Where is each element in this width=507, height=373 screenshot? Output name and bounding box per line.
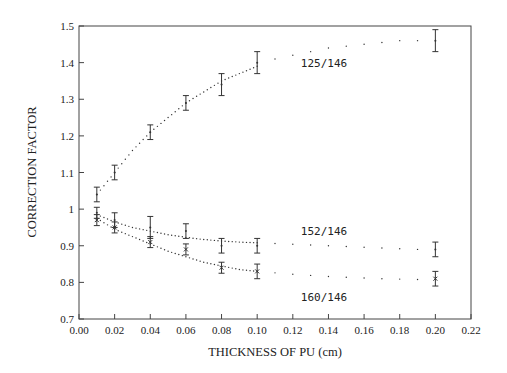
fit-dot: [246, 270, 247, 271]
fit-dot: [125, 159, 126, 160]
fit-dot: [103, 217, 104, 218]
fit-dot: [274, 272, 275, 273]
chart: 0.000.020.040.060.080.100.120.140.160.18…: [0, 0, 507, 373]
fit-dot: [118, 222, 119, 223]
fit-dot: [103, 185, 104, 186]
fit-dot: [199, 260, 200, 261]
fit-dot: [135, 237, 136, 238]
fit-dot: [274, 243, 275, 244]
point-marker: [256, 62, 258, 64]
fit-dot: [100, 220, 101, 221]
fit-dot: [224, 266, 225, 267]
fit-dot: [239, 269, 240, 270]
fit-dot: [232, 267, 233, 268]
series-group: 125/146152/146160/146: [94, 30, 439, 305]
fit-dot: [142, 240, 143, 241]
fit-dot: [346, 277, 347, 278]
fit-dot: [242, 242, 243, 243]
fit-dot: [142, 229, 143, 230]
fit-dot: [249, 69, 250, 70]
fit-dot: [139, 239, 140, 240]
fit-dot: [164, 120, 165, 121]
x-tick-label: 0.16: [354, 324, 374, 336]
fit-dot: [217, 82, 218, 83]
point-marker: [185, 102, 187, 104]
fit-dot: [253, 67, 254, 68]
fit-dot: [132, 236, 133, 237]
point-marker: [221, 84, 223, 86]
fit-dot: [399, 278, 400, 279]
fit-dot: [207, 89, 208, 90]
fit-dot: [153, 231, 154, 232]
x-tick-label: 0.12: [283, 324, 302, 336]
fit-dot: [171, 252, 172, 253]
fit-dot: [399, 40, 400, 41]
fit-dot: [142, 139, 143, 140]
y-axis-title: CORRECTION FACTOR: [25, 106, 39, 238]
fit-dot: [189, 237, 190, 238]
fit-dot: [107, 224, 108, 225]
series-label: 152/146: [301, 225, 347, 238]
x-tick-label: 0.02: [105, 324, 124, 336]
x-axis: 0.000.020.040.060.080.100.120.140.160.18…: [69, 314, 480, 336]
fit-dot: [153, 129, 154, 130]
fit-dot: [110, 226, 111, 227]
y-axis: 0.70.80.911.11.21.31.41.5: [60, 20, 84, 325]
fit-dot: [210, 239, 211, 240]
fit-dot: [210, 87, 211, 88]
fit-dot: [328, 276, 329, 277]
x-axis-title: THICKNESS OF PU (cm): [208, 345, 342, 359]
fit-dot: [107, 181, 108, 182]
fit-dot: [249, 270, 250, 271]
fit-dot: [178, 108, 179, 109]
fit-dot: [164, 233, 165, 234]
fit-dot: [128, 234, 129, 235]
x-tick-label: 0.04: [141, 324, 161, 336]
fit-dot: [274, 58, 275, 59]
fit-dot: [121, 163, 122, 164]
series-125-146: 125/146: [94, 30, 439, 202]
fit-dot: [242, 71, 243, 72]
fit-dot: [232, 76, 233, 77]
fit-dot: [210, 263, 211, 264]
x-tick-label: 0.18: [390, 324, 410, 336]
fit-dot: [199, 238, 200, 239]
fit-dot: [132, 227, 133, 228]
fit-dot: [292, 274, 293, 275]
fit-dot: [160, 123, 161, 124]
fit-dot: [363, 277, 364, 278]
x-tick-label: 0.22: [461, 324, 480, 336]
fit-dot: [146, 135, 147, 136]
fit-dot: [235, 241, 236, 242]
fit-dot: [100, 215, 101, 216]
fit-dot: [196, 238, 197, 239]
fit-dot: [160, 233, 161, 234]
fit-dot: [328, 245, 329, 246]
fit-dot: [100, 189, 101, 190]
fit-dot: [235, 74, 236, 75]
point-marker: [149, 226, 151, 228]
fit-dot: [178, 236, 179, 237]
fit-dot: [214, 264, 215, 265]
y-tick-label: 1.5: [60, 20, 74, 32]
fit-dot: [207, 239, 208, 240]
fit-dot: [217, 264, 218, 265]
fit-dot: [125, 233, 126, 234]
fit-dot: [128, 226, 129, 227]
fit-dot: [157, 232, 158, 233]
fit-dot: [167, 117, 168, 118]
fit-dot: [381, 42, 382, 43]
fit-dot: [164, 249, 165, 250]
fit-dot: [228, 77, 229, 78]
fit-dot: [363, 44, 364, 45]
series-label: 160/146: [301, 291, 347, 304]
fit-dot: [192, 258, 193, 259]
fit-dot: [203, 239, 204, 240]
fit-dot: [224, 79, 225, 80]
fit-dot: [214, 85, 215, 86]
y-tick-label: 1.3: [60, 93, 74, 105]
fit-dot: [171, 235, 172, 236]
fit-dot: [110, 176, 111, 177]
x-tick-label: 0.14: [319, 324, 339, 336]
fit-dot: [167, 234, 168, 235]
